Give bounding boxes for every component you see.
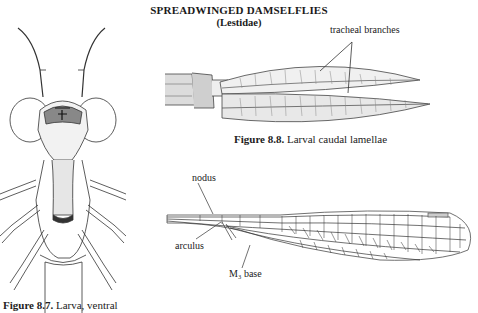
figure-8-8-caption: Figure 8.8. Larval caudal lamellae [234,133,387,145]
wing-venation-illustration [167,183,471,268]
figure-8-8-number: Figure 8.8. [234,133,284,145]
figure-8-7-number: Figure 8.7. [3,299,53,311]
label-arculus: arculus [175,240,204,251]
figure-8-7-caption: Figure 8.7. Larva, ventral [3,299,118,311]
figure-8-8-text: Larval caudal lamellae [287,133,387,145]
label-nodus: nodus [192,172,216,183]
illustrations [0,0,478,313]
label-m3-base: M₃ base [229,268,262,279]
label-tracheal-branches: tracheal branches [330,24,400,35]
caudal-lamellae-illustration [165,42,430,122]
figure-8-7-text: Larva, ventral [56,299,118,311]
larva-ventral-illustration [0,28,126,313]
